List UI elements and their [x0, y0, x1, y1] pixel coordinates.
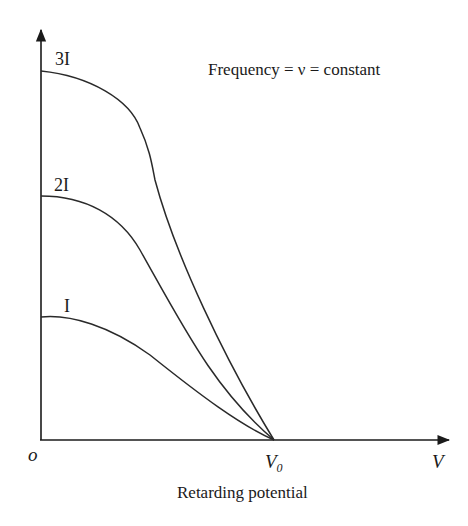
- curve-label-I: I: [64, 297, 70, 315]
- v0-subscript: 0: [277, 461, 283, 475]
- curve-label-2I: 2I: [54, 176, 69, 194]
- v0-main: V: [265, 451, 277, 472]
- curve-2I: [41, 196, 274, 440]
- v0-tick-label: V0: [265, 452, 283, 474]
- x-axis-title: Retarding potential: [177, 484, 308, 501]
- curve-label-3I: 3I: [55, 50, 70, 68]
- x-axis-end-label: V: [432, 452, 444, 471]
- frequency-annotation: Frequency = ν = constant: [208, 61, 380, 78]
- origin-label: o: [28, 445, 38, 464]
- curve-3I: [41, 71, 274, 440]
